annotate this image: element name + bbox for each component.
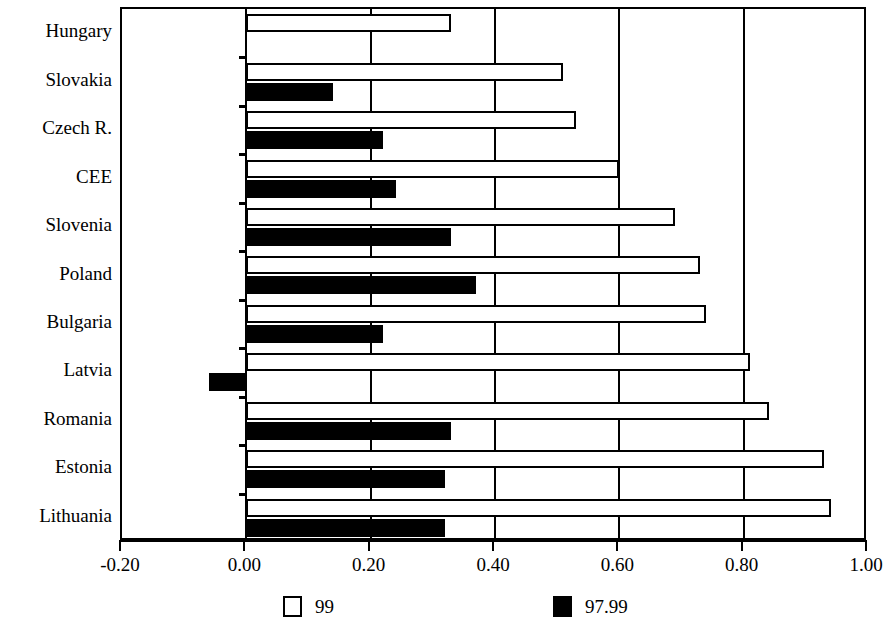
y-axis-tick [239,444,246,447]
bar-99 [246,305,706,323]
x-axis-tick [741,540,743,551]
x-axis-tick-label: -0.20 [100,555,140,575]
plot-inner [122,9,864,538]
legend-swatch-white [283,596,302,617]
x-axis-tick [616,540,618,551]
y-axis-tick [239,299,246,302]
bar-97-99 [209,373,246,391]
bar-97-99 [246,276,476,294]
bar-99 [246,111,575,129]
y-axis-tick [239,153,246,156]
x-axis-tick-label: 0.00 [228,555,261,575]
x-axis-tick-label: 1.00 [849,555,882,575]
category-label: Slovakia [0,70,112,89]
x-axis-tick-label: 0.40 [476,555,509,575]
legend-label: 97.99 [585,597,628,616]
bar-row [122,154,864,202]
y-axis-tick [239,493,246,496]
category-label: Latvia [0,360,112,379]
bar-row [122,397,864,445]
y-axis-tick [239,250,246,253]
x-axis-tick [368,540,370,551]
x-axis-tick [492,540,494,551]
bar-row [122,348,864,396]
y-axis-tick [239,202,246,205]
x-axis-tick-label: 0.60 [601,555,634,575]
legend-item: 99 [283,594,334,618]
bar-99 [246,402,768,420]
bar-97-99 [246,131,383,149]
x-axis-tick [243,540,245,551]
category-label: Hungary [0,21,112,40]
category-label: CEE [0,167,112,186]
x-axis-tick-label: 0.80 [725,555,758,575]
bar-99 [246,256,700,274]
chart-legend: 9997.99 [0,594,880,624]
bar-97-99 [246,325,383,343]
category-label: Czech R. [0,118,112,137]
x-axis-tick [119,540,121,551]
bar-row [122,106,864,154]
bar-row [122,203,864,251]
bar-row [122,57,864,105]
legend-swatch-black [553,596,572,617]
y-axis-tick [239,105,246,108]
bar-99 [246,14,451,32]
x-axis-tick [865,540,867,551]
bar-row [122,445,864,493]
category-label: Romania [0,409,112,428]
x-axis-tick-label: 0.20 [352,555,385,575]
legend-item: 97.99 [553,594,628,618]
bar-row [122,251,864,299]
legend-label: 99 [315,597,334,616]
category-label: Bulgaria [0,312,112,331]
y-axis-tick [239,396,246,399]
category-label: Slovenia [0,215,112,234]
bar-97-99 [246,470,445,488]
bar-99 [246,450,824,468]
category-label: Poland [0,264,112,283]
bar-99 [246,63,563,81]
bar-99 [246,160,619,178]
bar-97-99 [246,180,395,198]
bar-97-99 [246,519,445,537]
category-axis-labels: HungarySlovakiaCzech R.CEESloveniaPoland… [0,7,114,540]
y-axis-tick [239,347,246,350]
bar-99 [246,499,830,517]
bar-97-99 [246,422,451,440]
bar-97-99 [246,228,451,246]
bar-row [122,300,864,348]
y-axis-tick [239,56,246,59]
bar-99 [246,208,675,226]
category-label: Lithuania [0,506,112,525]
bar-97-99 [246,83,333,101]
plot-area [120,7,866,540]
category-label: Estonia [0,457,112,476]
bar-99 [246,353,750,371]
bar-row [122,9,864,57]
bar-row [122,494,864,542]
